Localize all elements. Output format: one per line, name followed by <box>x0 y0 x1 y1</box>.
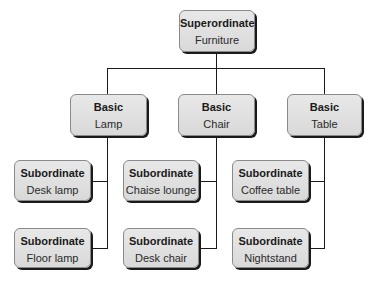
node-level-label: Basic <box>288 101 361 114</box>
node-term-label: Furniture <box>180 34 254 47</box>
node-level-label: Subordinate <box>124 235 198 248</box>
connector-lamp-down <box>107 136 108 249</box>
node-basic-chair: Basic Chair <box>178 94 255 136</box>
node-superordinate-furniture: Superordinate Furniture <box>179 10 255 52</box>
node-subordinate-desk-lamp: Subordinate Desk lamp <box>14 160 91 201</box>
connector-to-coffee-table <box>309 181 325 182</box>
node-level-label: Basic <box>179 101 254 114</box>
node-level-label: Subordinate <box>15 235 90 248</box>
connector-to-floor-lamp <box>91 248 108 249</box>
connector-to-desk-lamp <box>91 181 108 182</box>
node-level-label: Subordinate <box>124 167 198 180</box>
connector-chair-down <box>216 136 217 249</box>
node-term-label: Nightstand <box>233 252 308 265</box>
connector-furniture-down <box>216 52 217 69</box>
node-subordinate-floor-lamp: Subordinate Floor lamp <box>14 228 91 268</box>
connector-to-chaise-lounge <box>199 181 217 182</box>
node-term-label: Desk lamp <box>15 184 90 197</box>
node-basic-lamp: Basic Lamp <box>70 94 147 136</box>
connector-table-down <box>324 136 325 249</box>
node-term-label: Floor lamp <box>15 252 90 265</box>
node-term-label: Desk chair <box>124 252 198 265</box>
node-term-label: Chair <box>179 118 254 131</box>
connector-to-table <box>324 68 325 94</box>
connector-to-lamp <box>107 68 108 94</box>
node-subordinate-coffee-table: Subordinate Coffee table <box>232 160 309 201</box>
node-level-label: Subordinate <box>233 235 308 248</box>
node-term-label: Lamp <box>71 118 146 131</box>
node-basic-table: Basic Table <box>287 94 362 136</box>
node-subordinate-nightstand: Subordinate Nightstand <box>232 228 309 268</box>
node-term-label: Coffee table <box>233 184 308 197</box>
node-subordinate-desk-chair: Subordinate Desk chair <box>123 228 199 268</box>
node-term-label: Chaise lounge <box>124 184 198 197</box>
category-hierarchy-diagram: Superordinate Furniture Basic Lamp Basic… <box>0 0 375 283</box>
node-level-label: Superordinate <box>180 17 254 30</box>
connector-to-desk-chair <box>199 248 217 249</box>
node-level-label: Basic <box>71 101 146 114</box>
connector-to-nightstand <box>309 248 325 249</box>
node-level-label: Subordinate <box>15 167 90 180</box>
node-subordinate-chaise-lounge: Subordinate Chaise lounge <box>123 160 199 201</box>
node-term-label: Table <box>288 118 361 131</box>
node-level-label: Subordinate <box>233 167 308 180</box>
connector-to-chair <box>216 68 217 94</box>
